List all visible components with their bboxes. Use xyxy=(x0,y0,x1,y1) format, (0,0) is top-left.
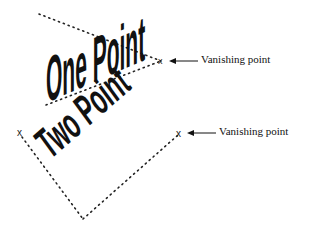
one-point-vanishing-label: Vanishing point xyxy=(201,53,270,65)
two-point-right-marker: x xyxy=(176,128,181,139)
arrow-left-icon xyxy=(187,130,216,136)
one-point-vanishing-marker: x xyxy=(158,56,163,66)
two-point-left-marker: x xyxy=(17,127,22,138)
perspective-diagram: One Point x Two Point x x xyxy=(0,0,315,230)
two-point-vanishing-label: Vanishing point xyxy=(219,125,288,137)
arrow-left-icon xyxy=(169,58,198,64)
